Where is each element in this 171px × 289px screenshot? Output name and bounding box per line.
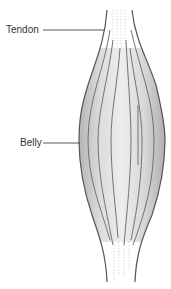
tendon-fibers-top (113, 10, 125, 48)
tendon-fibers-bottom (114, 242, 129, 282)
muscle-belly-shape (79, 10, 165, 282)
tendon-label: Tendon (6, 24, 39, 36)
belly-label: Belly (20, 137, 42, 149)
